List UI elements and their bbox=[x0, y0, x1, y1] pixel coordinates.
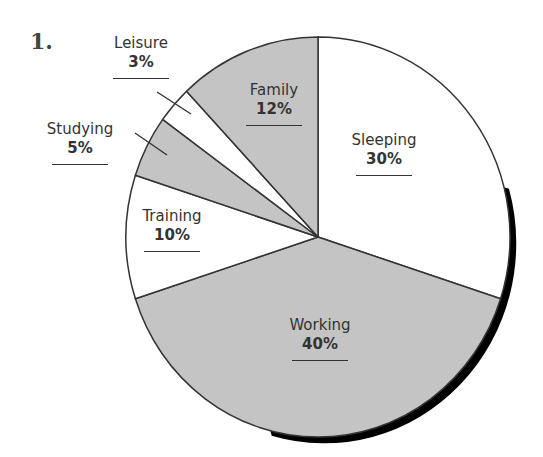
label-leisure-pct: 3% bbox=[113, 53, 169, 72]
label-studying: Studying 5% bbox=[44, 120, 116, 165]
label-training-pct: 10% bbox=[134, 226, 210, 245]
label-leisure-underline bbox=[113, 78, 169, 79]
label-studying-underline bbox=[52, 164, 108, 165]
label-training-underline bbox=[144, 251, 200, 252]
label-sleeping: Sleeping 30% bbox=[346, 131, 422, 176]
label-sleeping-pct: 30% bbox=[346, 150, 422, 169]
label-studying-pct: 5% bbox=[44, 139, 116, 158]
question-number: 1. bbox=[30, 28, 53, 54]
label-family: Family 12% bbox=[246, 81, 302, 126]
pie-chart bbox=[0, 0, 543, 457]
label-training: Training 10% bbox=[134, 207, 210, 252]
label-leisure-name: Leisure bbox=[113, 34, 169, 53]
label-leisure: Leisure 3% bbox=[113, 34, 169, 79]
label-studying-name: Studying bbox=[44, 120, 116, 139]
label-family-pct: 12% bbox=[246, 100, 302, 119]
label-sleeping-underline bbox=[356, 175, 412, 176]
label-working: Working 40% bbox=[282, 316, 358, 361]
label-sleeping-name: Sleeping bbox=[346, 131, 422, 150]
label-family-name: Family bbox=[246, 81, 302, 100]
label-working-name: Working bbox=[282, 316, 358, 335]
label-family-underline bbox=[246, 125, 302, 126]
label-working-pct: 40% bbox=[282, 335, 358, 354]
label-working-underline bbox=[292, 360, 348, 361]
label-training-name: Training bbox=[134, 207, 210, 226]
